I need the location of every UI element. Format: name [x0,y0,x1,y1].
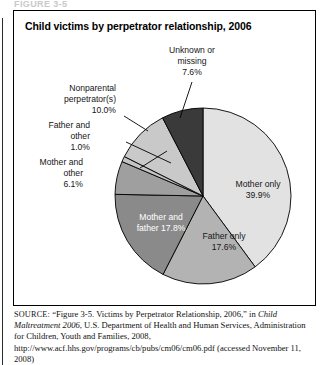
slice-label-mother-father: Mother and [139,212,183,222]
source-label: SOURCE: [14,310,50,319]
slice-label-father-other-line2: other [70,131,90,141]
pie-chart: Mother only 39.9% Father only 17.6% Moth… [0,0,330,306]
slice-value-unknown: 7.6% [182,67,202,77]
slice-label-unknown-line2: missing [177,56,206,66]
slice-label-mother-other-line1: Mother and [40,157,84,167]
slice-label-nonparental-line1: Nonparental [69,83,116,93]
slice-value-mother-only: 39.9% [246,190,271,200]
slice-value-mother-other: 6.1% [63,179,83,189]
slice-label-mother-other-line2: other [63,168,83,178]
slice-label-unknown-line1: Unknown or [169,45,215,55]
slice-value-father-only: 17.6% [212,242,237,252]
slice-label-father-other-line1: Father and [48,120,90,130]
slice-value-nonparental: 10.0% [92,105,117,115]
source-note: SOURCE: “Figure 3-5. Victims by Perpetra… [14,309,316,365]
leader-line-nonparental [124,116,148,131]
slice-value-mother-father: father 17.8% [137,223,186,233]
figure-page: FIGURE 3-5 Child victims by perpetrator … [0,0,330,365]
slice-value-father-other: 1.0% [70,142,90,152]
source-line1: “Figure 3-5. Victims by Perpetrator Rela… [50,309,258,319]
slice-label-mother-only: Mother only [236,179,282,189]
slice-label-nonparental-line2: perpetrator(s) [64,94,116,104]
slice-label-father-only: Father only [203,231,247,241]
